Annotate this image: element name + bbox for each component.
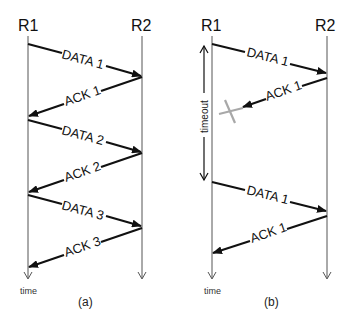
message-ack-1: ACK 1 (29, 77, 142, 116)
message-label: DATA 3 (60, 197, 105, 223)
message-data-2: DATA 2 (28, 120, 141, 152)
message-label: DATA 1 (60, 46, 105, 72)
message-ack-1: ACK 1 (213, 216, 327, 253)
message-label: ACK 3 (62, 233, 102, 259)
time-axis-label: time (204, 286, 221, 296)
sequence-diagram: R1 R2 DATA 1 ACK 1 DATA 2 (0, 0, 349, 323)
message-ack-2: ACK 2 (29, 153, 142, 192)
message-data-1: DATA 1 (28, 44, 141, 76)
r1-lifeline (24, 36, 32, 279)
node-r1-label: R1 (201, 17, 222, 34)
message-label: DATA 2 (60, 122, 105, 148)
node-r2-label: R2 (315, 17, 336, 34)
timeout-label: timeout (199, 100, 210, 133)
message-label: ACK 1 (62, 82, 102, 108)
panel-caption: (a) (78, 295, 93, 309)
message-data-1: DATA 1 (212, 44, 326, 73)
panel-caption: (b) (264, 295, 279, 309)
message-ack-3: ACK 3 (29, 228, 142, 267)
message-label: DATA 1 (245, 182, 290, 207)
timeout-interval: timeout (199, 46, 210, 180)
panel-b: R1 R2 timeout DATA 1 ACK 1 (199, 17, 336, 309)
message-ack-1-lost: ACK 1 (243, 77, 327, 107)
message-data-3: DATA 3 (28, 195, 141, 226)
message-label: ACK 1 (248, 219, 288, 245)
message-label: ACK 2 (62, 158, 102, 184)
panel-a: R1 R2 DATA 1 ACK 1 DATA 2 (18, 17, 152, 309)
time-axis-label: time (20, 286, 37, 296)
message-label: DATA 1 (245, 44, 290, 69)
r2-lifeline (138, 36, 146, 279)
lost-packet-x-icon (219, 100, 243, 123)
message-label: ACK 1 (263, 77, 303, 103)
r1-lifeline (208, 36, 216, 279)
node-r2-label: R2 (131, 17, 152, 34)
node-r1-label: R1 (18, 17, 39, 34)
message-data-1-retransmit: DATA 1 (212, 182, 326, 211)
